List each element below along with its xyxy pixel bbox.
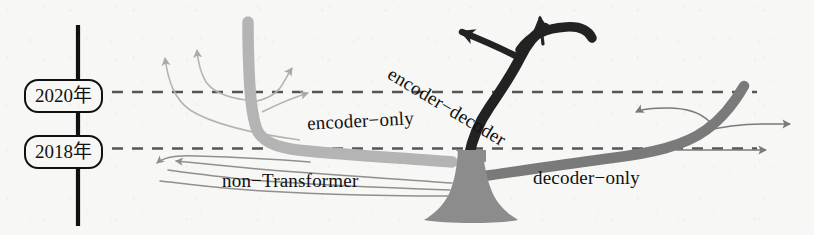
label-non-transformer: non−Transformer	[222, 170, 359, 192]
encoder-decoder-tip-left	[462, 32, 516, 56]
decoder-only-tip-left	[636, 108, 710, 122]
year-badge-2018[interactable]: 2018年	[24, 135, 103, 169]
encoder-only-tip-right	[252, 68, 292, 102]
encoder-only-tip-farleft	[165, 58, 300, 140]
encoder-only-tip-mid	[262, 93, 308, 112]
figure-canvas: 2020年 2018年 encoder−only encoder−decoder…	[0, 0, 814, 235]
branch-decoder-only	[484, 86, 790, 176]
label-decoder-only: decoder−only	[533, 167, 640, 189]
year-badge-2020[interactable]: 2020年	[24, 79, 103, 113]
encoder-decoder-tip-up	[540, 18, 543, 44]
